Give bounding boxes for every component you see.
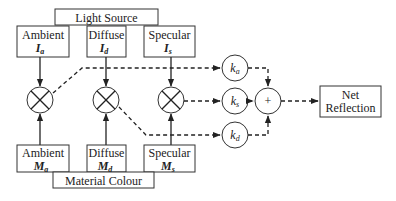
coefficient-kd: kd bbox=[222, 122, 248, 148]
net-reflection-line2: Reflection bbox=[326, 101, 376, 115]
material-colour-label: Material Colour bbox=[65, 174, 142, 188]
multiply-circle-icon bbox=[93, 87, 119, 113]
light-source-box: Light Source bbox=[55, 9, 158, 25]
reflection-model-diagram: Light Source Ambient Ia Diffuse Id Specu… bbox=[0, 0, 396, 201]
net-reflection-line1: Net bbox=[342, 88, 360, 102]
material-ambient-box: Ambient Ma bbox=[17, 145, 69, 174]
dashed-ambient-to-ka bbox=[53, 68, 220, 93]
material-diffuse-box: Diffuse Md bbox=[87, 145, 126, 174]
dashed-ka-to-sum bbox=[248, 68, 268, 86]
light-ambient-box: Ambient Ia bbox=[17, 26, 69, 57]
light-specular-label: Specular bbox=[149, 28, 191, 42]
light-ambient-label: Ambient bbox=[22, 28, 65, 42]
light-specular-box: Specular Is bbox=[144, 26, 195, 57]
coefficient-ks: ks bbox=[222, 88, 248, 114]
light-diffuse-label: Diffuse bbox=[89, 28, 125, 42]
plus-icon: + bbox=[265, 94, 272, 108]
light-source-label: Light Source bbox=[75, 11, 137, 25]
material-colour-box: Material Colour bbox=[53, 172, 154, 188]
multiply-circle-icon bbox=[158, 87, 184, 113]
material-specular-box: Specular Ms bbox=[144, 145, 195, 174]
sum-circle: + bbox=[255, 88, 281, 114]
dashed-kd-to-sum bbox=[248, 116, 268, 135]
multiply-circle-icon bbox=[27, 87, 53, 113]
coefficient-ka: ka bbox=[222, 55, 248, 81]
light-diffuse-box: Diffuse Id bbox=[87, 26, 126, 57]
net-reflection-box: Net Reflection bbox=[320, 86, 381, 117]
